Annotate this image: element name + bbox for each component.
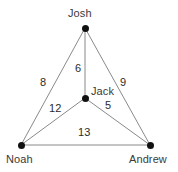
edge-weight-josh-jack: 6 [75,62,81,74]
node-label-josh: Josh [68,7,92,19]
graph-edge-jack-andrew [85,98,150,145]
edge-weight-josh-noah: 8 [40,76,46,88]
edge-weight-jack-andrew: 5 [105,99,111,111]
node-label-noah: Noah [6,153,33,165]
graph-node-josh [82,25,89,32]
weighted-graph-diagram: JoshJackNoahAndrew 86912513 [0,0,178,172]
graph-edge-josh-noah [21,28,85,145]
graph-node-noah [18,142,25,149]
edge-weight-josh-andrew: 9 [120,76,126,88]
graph-node-andrew [147,142,154,149]
edge-weight-noah-jack: 12 [49,102,62,114]
node-label-jack: Jack [91,85,114,97]
node-label-andrew: Andrew [129,153,167,165]
graph-node-jack [82,95,89,102]
edge-weight-noah-andrew: 13 [78,126,91,138]
